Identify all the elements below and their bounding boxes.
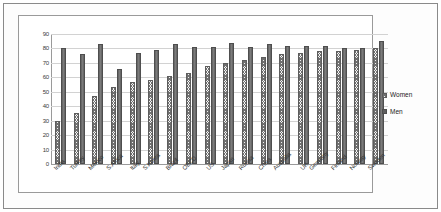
x-axis-tick-labels: IndiaTurkeyMexicoS.AfricaItalyS.KoreaBra… [51, 166, 388, 204]
bar-women[interactable] [55, 121, 60, 164]
x-tick-cell: Italy [126, 166, 145, 204]
bar-group [332, 34, 351, 164]
bar-group [163, 34, 182, 164]
bar-men[interactable] [136, 53, 141, 164]
x-tick-cell: Turkey [70, 166, 89, 204]
bar-women[interactable] [130, 82, 135, 164]
bar-women[interactable] [298, 53, 303, 164]
bar-group [201, 34, 220, 164]
y-tick-label: 0 [46, 161, 49, 167]
legend-item-men[interactable]: Men [382, 109, 440, 116]
image-border: 0102030405060708090 IndiaTurkeyMexicoS.A… [3, 3, 438, 209]
y-tick-label: 10 [43, 147, 49, 153]
bar-women[interactable] [354, 50, 359, 164]
bar-group [257, 34, 276, 164]
bar-group [88, 34, 107, 164]
x-tick-cell: S.Korea [145, 166, 164, 204]
bar-women[interactable] [261, 57, 266, 164]
bar-group [51, 34, 70, 164]
x-tick-cell: China [257, 166, 276, 204]
x-tick-cell: Brazil [163, 166, 182, 204]
bar-men[interactable] [323, 46, 328, 164]
x-tick-cell: US [201, 166, 220, 204]
plot-area [51, 34, 388, 164]
bar-men[interactable] [248, 47, 253, 164]
bar-group [182, 34, 201, 164]
y-tick-label: 90 [43, 31, 49, 37]
bar-men[interactable] [360, 48, 365, 164]
bar-men[interactable] [117, 69, 122, 164]
bar-men[interactable] [211, 47, 216, 164]
bar-group [219, 34, 238, 164]
bar-women[interactable] [242, 60, 247, 164]
bar-women[interactable] [373, 48, 378, 164]
legend-label-men: Men [390, 109, 403, 116]
x-tick-cell: UK [294, 166, 313, 204]
bar-women[interactable] [167, 76, 172, 164]
x-tick-cell: Germany [313, 166, 332, 204]
bar-men[interactable] [192, 47, 197, 164]
bar-men[interactable] [342, 48, 347, 164]
y-axis-tick-labels: 0102030405060708090 [33, 34, 51, 164]
bar-men[interactable] [154, 50, 159, 164]
legend-label-women: Women [390, 92, 412, 99]
bar-men[interactable] [98, 44, 103, 164]
bar-men[interactable] [285, 46, 290, 164]
bar-group [107, 34, 126, 164]
bar-women[interactable] [92, 96, 97, 164]
bar-group [238, 34, 257, 164]
bar-series-container [51, 34, 388, 164]
x-tick-cell: India [51, 166, 70, 204]
x-tick-cell: S.Africa [107, 166, 126, 204]
bar-women[interactable] [186, 73, 191, 164]
chart-legend: Women Men [382, 92, 440, 125]
x-tick-cell: Mexico [88, 166, 107, 204]
bar-women[interactable] [279, 54, 284, 164]
bar-men[interactable] [304, 46, 309, 164]
chart-screenshot: 0102030405060708090 IndiaTurkeyMexicoS.A… [0, 0, 441, 212]
x-tick-cell: Norway [351, 166, 370, 204]
bar-women[interactable] [336, 51, 341, 164]
bar-men[interactable] [80, 54, 85, 164]
bar-women[interactable] [111, 87, 116, 164]
bar-group [276, 34, 295, 164]
x-tick-cell: Japan [219, 166, 238, 204]
y-tick-label: 40 [43, 103, 49, 109]
x-tick-cell: Russia [238, 166, 257, 204]
y-tick-label: 30 [43, 118, 49, 124]
legend-swatch-men-icon [382, 109, 387, 114]
bar-men[interactable] [61, 48, 66, 164]
bar-group [126, 34, 145, 164]
y-tick-label: 50 [43, 89, 49, 95]
bar-men[interactable] [173, 44, 178, 164]
bar-women[interactable] [205, 66, 210, 164]
legend-item-women[interactable]: Women [382, 92, 440, 99]
bar-men[interactable] [267, 44, 272, 164]
bar-group [70, 34, 89, 164]
x-tick-cell: Finland [332, 166, 351, 204]
bar-women[interactable] [317, 51, 322, 164]
x-tick-cell: Australia [276, 166, 295, 204]
bar-men[interactable] [229, 43, 234, 164]
chart-plot-frame: 0102030405060708090 IndiaTurkeyMexicoS.A… [18, 15, 373, 193]
bar-group [351, 34, 370, 164]
bar-women[interactable] [148, 80, 153, 164]
legend-swatch-women-icon [382, 93, 387, 98]
bar-group [294, 34, 313, 164]
bar-group [145, 34, 164, 164]
y-tick-label: 80 [43, 45, 49, 51]
bar-group [313, 34, 332, 164]
x-tick-cell: Sweden [369, 166, 388, 204]
bar-women[interactable] [223, 63, 228, 164]
y-tick-label: 20 [43, 132, 49, 138]
x-tick-cell: OECD [182, 166, 201, 204]
y-tick-label: 60 [43, 74, 49, 80]
y-tick-label: 70 [43, 60, 49, 66]
